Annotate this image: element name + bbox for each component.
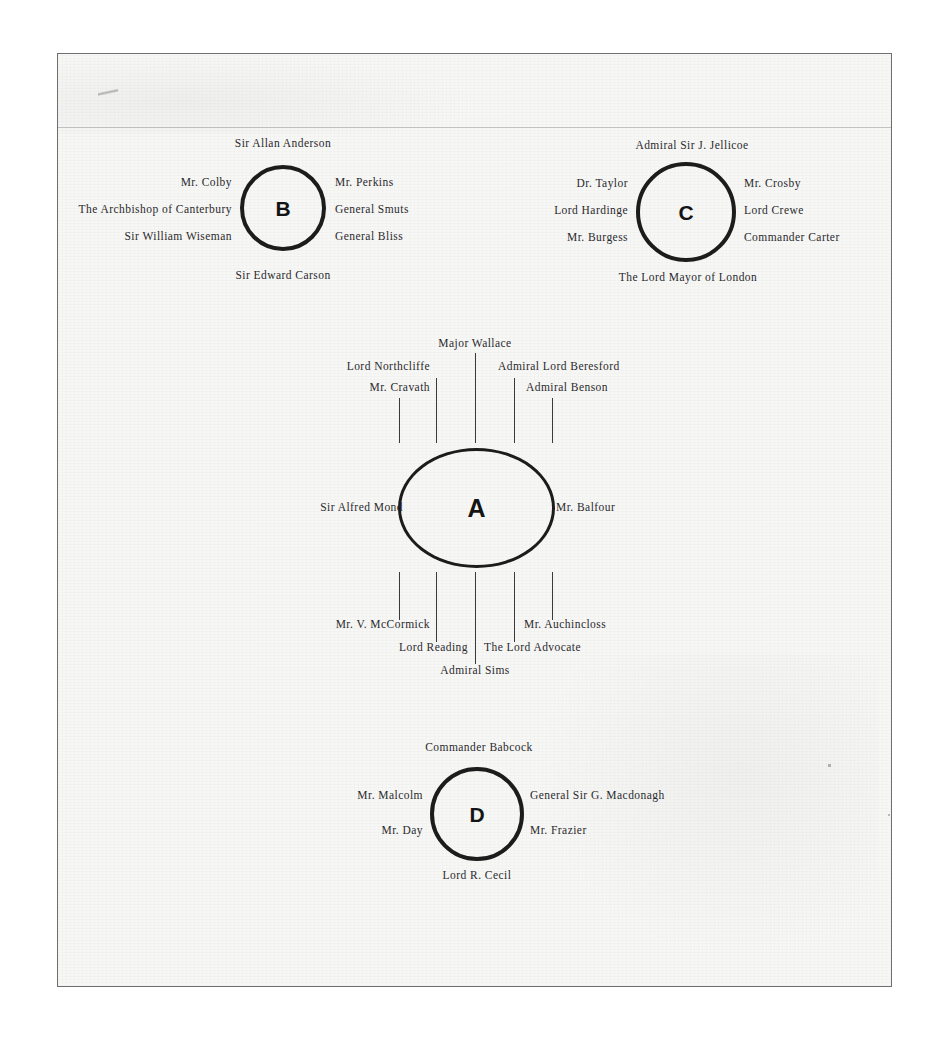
label-c-right-2: Lord Crewe	[744, 205, 804, 217]
connector-a-bottom-2	[436, 572, 437, 642]
node-circle-b[interactable]: B	[240, 165, 326, 251]
connector-a-top-2	[436, 378, 437, 443]
node-circle-c[interactable]: C	[636, 162, 736, 262]
label-c-right-1: Mr. Crosby	[744, 178, 801, 190]
label-b-left-3: Sir William Wiseman	[125, 231, 233, 243]
node-a-letter: A	[467, 496, 485, 521]
label-c-left-1: Dr. Taylor	[577, 178, 628, 190]
label-a-left: Sir Alfred Mond	[320, 502, 403, 514]
connector-a-bottom-5	[552, 572, 553, 620]
connector-a-top-5	[552, 398, 553, 443]
node-b-letter: B	[275, 198, 290, 219]
label-b-top: Sir Allan Anderson	[235, 138, 331, 150]
label-d-bottom: Lord R. Cecil	[443, 870, 512, 882]
label-a-bottom-3: Admiral Sims	[440, 665, 510, 677]
label-b-right-3: General Bliss	[335, 231, 403, 243]
diagram: B Sir Allan Anderson Mr. Colby The Archb…	[0, 0, 930, 1047]
label-a-bottom-5: Mr. Auchincloss	[524, 619, 606, 631]
label-d-top: Commander Babcock	[425, 742, 533, 754]
label-d-right-1: General Sir G. Macdonagh	[530, 790, 665, 802]
label-b-right-1: Mr. Perkins	[335, 177, 394, 189]
label-a-right: Mr. Balfour	[556, 502, 615, 514]
connector-a-bottom-1	[399, 572, 400, 620]
node-ellipse-a[interactable]: A	[398, 448, 555, 568]
label-a-bottom-4: The Lord Advocate	[484, 642, 581, 654]
label-b-bottom: Sir Edward Carson	[235, 270, 330, 282]
label-b-left-1: Mr. Colby	[181, 177, 232, 189]
label-b-right-2: General Smuts	[335, 204, 409, 216]
label-c-right-3: Commander Carter	[744, 232, 840, 244]
connector-a-bottom-3	[475, 572, 476, 664]
label-c-bottom: The Lord Mayor of London	[619, 272, 758, 284]
label-d-left-1: Mr. Malcolm	[357, 790, 423, 802]
label-a-bottom-1: Mr. V. McCormick	[336, 619, 430, 631]
label-b-left-2: The Archbishop of Canterbury	[79, 204, 232, 216]
label-d-right-2: Mr. Frazier	[530, 825, 587, 837]
scanned-page: B Sir Allan Anderson Mr. Colby The Archb…	[0, 0, 930, 1047]
label-a-top-4: Admiral Lord Beresford	[498, 361, 620, 373]
label-d-left-2: Mr. Day	[382, 825, 423, 837]
connector-a-bottom-4	[514, 572, 515, 642]
node-d-letter: D	[469, 804, 484, 825]
label-a-bottom-2: Lord Reading	[399, 642, 468, 654]
label-c-left-2: Lord Hardinge	[554, 205, 628, 217]
node-circle-d[interactable]: D	[430, 767, 524, 861]
label-c-top: Admiral Sir J. Jellicoe	[635, 140, 748, 152]
connector-a-top-1	[399, 398, 400, 443]
label-a-top-2: Lord Northcliffe	[347, 361, 430, 373]
label-a-top-1: Mr. Cravath	[369, 382, 430, 394]
connector-a-top-4	[514, 378, 515, 443]
label-a-top-3: Major Wallace	[438, 338, 511, 350]
node-c-letter: C	[678, 202, 693, 223]
label-c-left-3: Mr. Burgess	[567, 232, 628, 244]
connector-a-top-3	[475, 353, 476, 443]
label-a-top-5: Admiral Benson	[526, 382, 608, 394]
